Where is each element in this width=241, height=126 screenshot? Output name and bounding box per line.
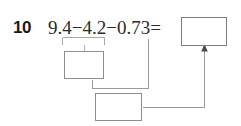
grouping-bracket-icon [63,38,105,45]
answer-input-box[interactable] [181,17,227,46]
work-box-1-input[interactable] [64,51,104,79]
connector-line-box1-to-box2-icon [93,80,149,89]
connector-line-box2-to-answer-icon [143,51,205,108]
worksheet-problem: 10 9.4−4.2−0.73= [0,0,241,126]
work-box-2-input[interactable] [95,93,142,121]
